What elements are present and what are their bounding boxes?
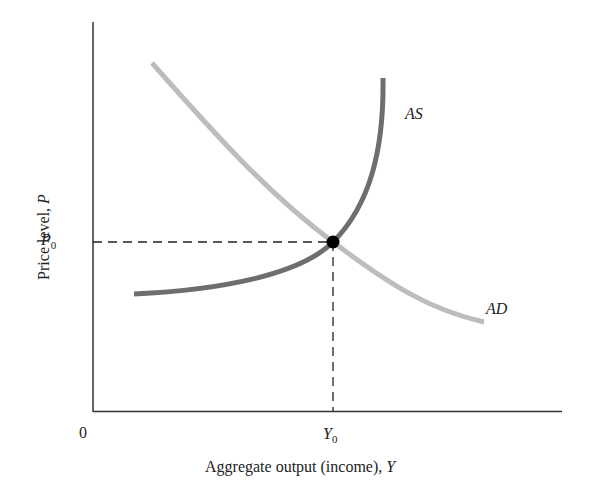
as-label: AS — [405, 105, 423, 123]
x-axis-label: Aggregate output (income), Y — [205, 458, 395, 476]
y-axis-label: Price level, P — [35, 167, 53, 307]
ad-curve — [152, 63, 484, 322]
origin-label: 0 — [79, 424, 87, 442]
ad-label: AD — [486, 300, 507, 318]
as-curve — [134, 78, 383, 294]
y0-label: Y0 — [323, 425, 337, 445]
diagram-canvas — [0, 0, 593, 494]
equilibrium-point — [327, 236, 340, 249]
